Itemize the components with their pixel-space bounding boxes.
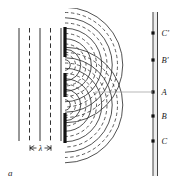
barrier-segment-2 bbox=[63, 73, 66, 97]
screen-point-label-Cprime: C′ bbox=[162, 28, 170, 38]
screen-point-marker-Cprime bbox=[151, 31, 154, 34]
observation-screen bbox=[153, 12, 158, 176]
panel-label: a bbox=[8, 168, 13, 178]
screen-body bbox=[153, 12, 158, 176]
screen-point-marker-B bbox=[151, 114, 154, 117]
screen-point-marker-C bbox=[151, 139, 154, 142]
screen-point-marker-Bprime bbox=[151, 58, 154, 61]
barrier-segment-3 bbox=[63, 113, 66, 143]
screen-point-label-B: B bbox=[162, 111, 167, 121]
diffraction-figure: λ C′B′ABC a bbox=[0, 0, 174, 184]
screen-point-label-C: C bbox=[162, 136, 168, 146]
barrier-segment-1 bbox=[63, 27, 66, 57]
double-slit-interference-diagram: λ C′B′ABC a bbox=[0, 0, 174, 184]
screen-point-label-A: A bbox=[161, 87, 168, 97]
slit-barrier bbox=[63, 27, 66, 143]
screen-point-label-Bprime: B′ bbox=[162, 55, 169, 65]
wavelength-label: λ bbox=[38, 144, 43, 153]
